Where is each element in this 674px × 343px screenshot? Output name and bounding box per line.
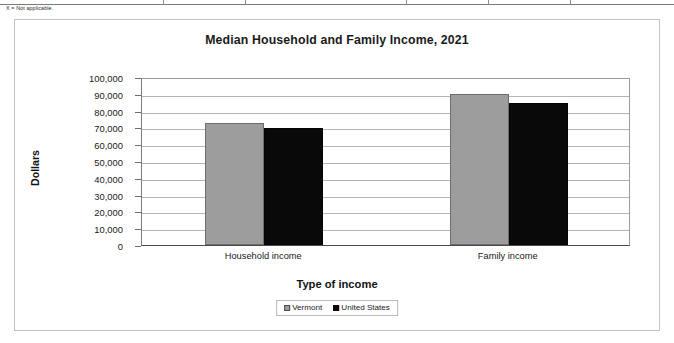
y-axis-title: Dollars bbox=[29, 150, 41, 186]
legend-entry-united-states[interactable]: United States bbox=[333, 303, 390, 312]
table-column-separator bbox=[488, 0, 489, 5]
y-axis-tick-label: 60,000 bbox=[43, 140, 123, 151]
table-column-separator bbox=[163, 0, 164, 5]
table-footnote: X = Not applicable. bbox=[6, 5, 53, 11]
bar-vermont-household-income bbox=[205, 123, 264, 245]
chart-title: Median Household and Family Income, 2021 bbox=[15, 33, 659, 47]
x-axis-category-label: Household income bbox=[203, 251, 323, 261]
legend-color-swatch-icon bbox=[333, 305, 339, 311]
plot-area bbox=[141, 78, 630, 246]
chart-container: Median Household and Family Income, 2021… bbox=[14, 19, 660, 331]
chart-legend: VermontUnited States bbox=[276, 300, 398, 316]
legend-label: United States bbox=[341, 303, 390, 312]
bar-vermont-family-income bbox=[450, 94, 509, 245]
legend-color-swatch-icon bbox=[284, 305, 290, 311]
y-axis-tick-label: 20,000 bbox=[43, 207, 123, 218]
y-axis-tick-label: 10,000 bbox=[43, 224, 123, 235]
y-axis-tick-label: 100,000 bbox=[43, 73, 123, 84]
legend-entry-vermont[interactable]: Vermont bbox=[284, 303, 322, 312]
table-column-separator bbox=[570, 0, 571, 5]
y-axis-tick-label: 40,000 bbox=[43, 173, 123, 184]
table-bottom-edge-remnant bbox=[0, 0, 674, 5]
y-axis-tick-label: 0 bbox=[43, 241, 123, 252]
table-bottom-border bbox=[0, 4, 674, 5]
y-axis-tick-label: 80,000 bbox=[43, 106, 123, 117]
y-axis-tick-label: 30,000 bbox=[43, 190, 123, 201]
x-axis-title: Type of income bbox=[15, 278, 659, 290]
table-column-separator bbox=[245, 0, 246, 5]
y-axis-tick-label: 50,000 bbox=[43, 157, 123, 168]
bar-united-states-family-income bbox=[509, 103, 568, 245]
y-axis-tick-label: 90,000 bbox=[43, 89, 123, 100]
bar-united-states-household-income bbox=[264, 128, 323, 245]
table-column-separator bbox=[406, 0, 407, 5]
legend-label: Vermont bbox=[292, 303, 322, 312]
y-axis-tick-label: 70,000 bbox=[43, 123, 123, 134]
y-axis-tick-mark bbox=[135, 246, 141, 247]
gridline bbox=[142, 96, 629, 97]
x-axis-category-label: Family income bbox=[448, 251, 568, 261]
